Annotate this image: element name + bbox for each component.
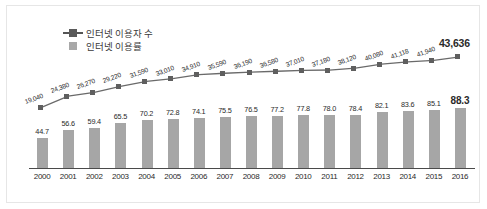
bar-value-label: 85.1 — [427, 99, 440, 108]
bar-internet-usage-rate — [63, 130, 74, 168]
x-axis-tick-label: 2015 — [421, 172, 447, 181]
bar-value-label: 78.0 — [323, 104, 336, 113]
bar-value-label: 82.1 — [375, 101, 388, 110]
x-axis-tick-labels: 2000200120022003200420052006200720082009… — [29, 172, 473, 190]
bar-internet-usage-rate — [272, 116, 283, 168]
line-data-point — [194, 72, 199, 77]
bar-value-label: 75.5 — [218, 106, 231, 115]
bar-internet-usage-rate — [298, 115, 309, 168]
x-axis-tick-label: 2001 — [55, 172, 81, 181]
chart-column: 76.536,190 — [238, 20, 264, 168]
line-data-point — [168, 76, 173, 81]
bar-value-label: 77.2 — [270, 105, 283, 114]
x-axis-tick-label: 2011 — [316, 172, 342, 181]
bar-internet-usage-rate — [455, 108, 466, 168]
chart-column: 59.426,270 — [81, 20, 107, 168]
x-axis-tick-label: 2004 — [134, 172, 160, 181]
line-data-point — [325, 68, 330, 73]
bar-internet-usage-rate — [115, 123, 126, 168]
line-value-label: 19,040 — [24, 92, 44, 105]
x-axis-line — [29, 168, 475, 169]
x-axis-tick-label: 2013 — [369, 172, 395, 181]
bar-internet-usage-rate — [194, 118, 205, 168]
line-data-point — [64, 94, 69, 99]
line-data-point — [403, 59, 408, 64]
chart-column: 77.236,580 — [264, 20, 290, 168]
x-axis-tick-label: 2005 — [160, 172, 186, 181]
bar-internet-usage-rate — [246, 116, 257, 168]
x-axis-tick-label: 2007 — [212, 172, 238, 181]
bar-value-label: 76.5 — [244, 105, 257, 114]
line-data-point — [299, 68, 304, 73]
line-data-point — [377, 62, 382, 67]
bar-internet-usage-rate — [168, 119, 179, 169]
x-axis-tick-label: 2003 — [107, 172, 133, 181]
chart-column: 82.140,080 — [369, 20, 395, 168]
x-axis-tick-label: 2014 — [395, 172, 421, 181]
x-axis-tick-label: 2016 — [447, 172, 473, 181]
x-axis-tick-label: 2000 — [29, 172, 55, 181]
bar-internet-usage-rate — [350, 115, 361, 168]
x-axis-tick-label: 2010 — [290, 172, 316, 181]
bar-internet-usage-rate — [220, 117, 231, 168]
chart-column: 78.037,180 — [316, 20, 342, 168]
bar-internet-usage-rate — [403, 111, 414, 168]
chart-column: 75.535,590 — [212, 20, 238, 168]
chart-column: 77.837,010 — [290, 20, 316, 168]
bar-internet-usage-rate — [142, 120, 153, 168]
line-data-point — [38, 105, 43, 110]
bar-value-label: 70.2 — [140, 109, 153, 118]
bar-value-label: 65.5 — [114, 112, 127, 121]
chart-column: 88.343,636 — [447, 20, 473, 168]
line-data-point — [142, 79, 147, 84]
chart-column: 70.231,590 — [134, 20, 160, 168]
line-data-point — [455, 54, 460, 59]
chart-column: 65.529,220 — [107, 20, 133, 168]
bar-value-label: 78.4 — [349, 104, 362, 113]
line-value-label: 43,636 — [439, 37, 470, 49]
bar-internet-usage-rate — [324, 115, 335, 168]
x-axis-tick-label: 2012 — [342, 172, 368, 181]
x-axis-tick-label: 2009 — [264, 172, 290, 181]
bar-value-label: 74.1 — [192, 107, 205, 116]
bar-internet-usage-rate — [429, 110, 440, 168]
bar-internet-usage-rate — [37, 138, 48, 168]
bar-internet-usage-rate — [377, 112, 388, 168]
bar-value-label: 88.3 — [451, 95, 470, 106]
bar-internet-usage-rate — [89, 128, 100, 168]
bar-value-label: 72.8 — [166, 108, 179, 117]
line-data-point — [273, 69, 278, 74]
chart-column: 72.833,010 — [160, 20, 186, 168]
line-data-point — [351, 66, 356, 71]
line-data-point — [220, 71, 225, 76]
line-data-point — [116, 84, 121, 89]
plot-area: 44.719,04056.624,38059.426,27065.529,220… — [29, 20, 473, 168]
line-data-point — [90, 90, 95, 95]
bar-value-label: 83.6 — [401, 100, 414, 109]
x-axis-tick-label: 2008 — [238, 172, 264, 181]
line-data-point — [247, 70, 252, 75]
x-axis-tick-label: 2002 — [81, 172, 107, 181]
chart-column: 74.134,910 — [186, 20, 212, 168]
chart-column: 78.438,120 — [342, 20, 368, 168]
chart-column: 83.641,118 — [395, 20, 421, 168]
chart-column: 56.624,380 — [55, 20, 81, 168]
bar-value-label: 59.4 — [88, 117, 101, 126]
chart-frame: 인터넷 이용자 수 인터넷 이용률 44.719,04056.624,38059… — [6, 5, 480, 203]
x-axis-tick-label: 2006 — [186, 172, 212, 181]
bar-value-label: 77.8 — [297, 104, 310, 113]
bar-value-label: 44.7 — [35, 127, 48, 136]
bar-value-label: 56.6 — [61, 119, 74, 128]
line-data-point — [429, 58, 434, 63]
